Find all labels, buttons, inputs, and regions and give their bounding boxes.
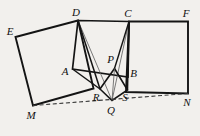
vertex-label-Q: Q	[107, 105, 115, 116]
vertex-label-S: S	[122, 91, 128, 102]
vertex-label-P: P	[107, 53, 114, 64]
vertex-label-N: N	[183, 96, 190, 107]
vertex-label-R: R	[93, 92, 100, 103]
vertex-label-E: E	[7, 26, 14, 37]
vertex-label-A: A	[62, 65, 69, 76]
vertex-label-D: D	[72, 7, 80, 18]
vertex-label-M: M	[26, 110, 35, 121]
right-quadrilateral-CFNS	[126, 22, 188, 94]
vertex-label-B: B	[130, 68, 137, 79]
geometry-figure: E D C F A B P R S Q M N	[0, 0, 200, 136]
vertex-label-C: C	[124, 8, 131, 19]
vertex-label-F: F	[183, 8, 190, 19]
segment-D-to-R	[78, 21, 100, 90]
